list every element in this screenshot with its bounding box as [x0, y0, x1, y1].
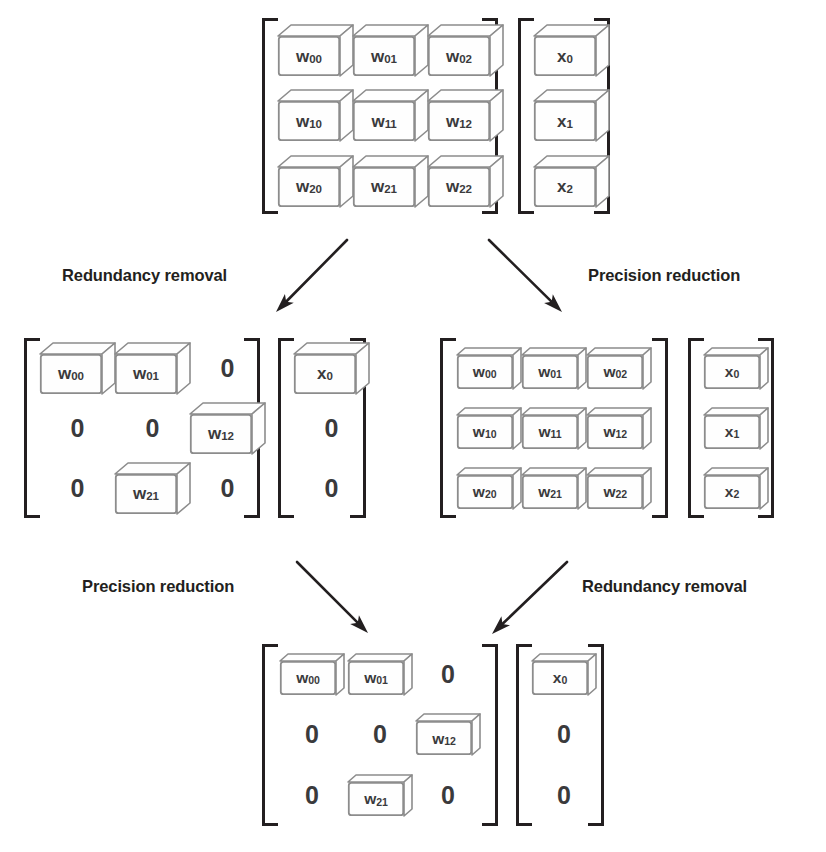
- zero-entry: 0: [373, 722, 387, 747]
- matrix-cell: w12: [414, 705, 482, 766]
- left-bracket: [688, 338, 704, 518]
- zero-entry: 0: [441, 662, 455, 687]
- vector-final-input: x000: [516, 644, 604, 826]
- zero-entry: 0: [305, 722, 319, 747]
- cube-shape-icon: [534, 156, 609, 207]
- cube-shape-icon: [280, 654, 344, 695]
- cube-shape-icon: [353, 25, 428, 76]
- zero-entry: 0: [557, 722, 571, 747]
- weight-cube: w00: [40, 343, 115, 394]
- matrix-cells: x0x1x2: [534, 18, 594, 214]
- zero-entry: 0: [557, 783, 571, 808]
- matrix-cell: w10: [456, 398, 521, 458]
- cube-shape-icon: [704, 348, 768, 389]
- cube-shape-icon: [353, 90, 428, 141]
- matrix-cell: w11: [521, 398, 586, 458]
- matrix-cell: x0: [532, 644, 596, 705]
- weight-cube: w11: [353, 90, 428, 141]
- weight-cube: w21: [115, 463, 190, 514]
- matrix-sparse-weights: w00w01000w120w210: [24, 338, 260, 518]
- cube-shape-icon: [278, 25, 353, 76]
- arrow-redundancy-removal-top: [261, 225, 362, 327]
- matrix-cell: 0: [294, 458, 369, 518]
- matrix-cell: 0: [190, 458, 265, 518]
- cube-shape-icon: [534, 25, 609, 76]
- matrix-cell: 0: [190, 338, 265, 398]
- zero-entry: 0: [325, 416, 339, 441]
- matrix-cell: w01: [521, 338, 586, 398]
- cube-shape-icon: [522, 468, 586, 509]
- matrix-cell: w00: [40, 338, 115, 398]
- weight-cube: x1: [704, 408, 768, 449]
- zero-entry: 0: [71, 416, 85, 441]
- arrow-redundancy-removal-bottom: [477, 547, 582, 649]
- matrix-cell: 0: [346, 705, 414, 766]
- weight-cube: w10: [457, 408, 521, 449]
- cube-shape-icon: [457, 408, 521, 449]
- matrix-cell: x1: [704, 398, 768, 458]
- caption-redundancy-removal-bottom: Redundancy removal: [582, 578, 747, 595]
- cube-shape-icon: [278, 90, 353, 141]
- matrix-cells: w00w01w02w10w11w12w20w21w22: [456, 338, 652, 518]
- matrix-cell: x0: [704, 338, 768, 398]
- cube-shape-icon: [532, 654, 596, 695]
- matrix-cell: w01: [353, 18, 428, 83]
- matrix-cell: w10: [278, 83, 353, 148]
- matrix-cell: w20: [456, 458, 521, 518]
- weight-cube: w10: [278, 90, 353, 141]
- matrix-final-weights: w00w01000w120w210: [262, 644, 498, 826]
- left-bracket: [278, 338, 294, 518]
- weight-cube: w01: [353, 25, 428, 76]
- cube-shape-icon: [294, 343, 369, 394]
- matrix-cell: w21: [521, 458, 586, 518]
- matrix-cell: x0: [294, 338, 369, 398]
- weight-cube: w12: [416, 714, 480, 755]
- vector-quantized-input: x0x1x2: [688, 338, 774, 518]
- matrix-cell: 0: [40, 458, 115, 518]
- weight-cube: w20: [457, 468, 521, 509]
- vector-original-input: x0x1x2: [518, 18, 610, 214]
- matrix-cell: 0: [115, 398, 190, 458]
- left-bracket: [24, 338, 40, 518]
- cube-shape-icon: [348, 775, 412, 816]
- weight-cube: x0: [294, 343, 369, 394]
- weight-cube: x1: [534, 90, 609, 141]
- caption-redundancy-removal-top: Redundancy removal: [62, 267, 227, 284]
- matrix-cells: w00w01000w120w210: [40, 338, 244, 518]
- cube-shape-icon: [353, 156, 428, 207]
- arrow-precision-reduction-top: [474, 225, 577, 327]
- matrix-cells: w00w01w02w10w11w12w20w21w22: [278, 18, 482, 214]
- matrix-original-weights: w00w01w02w10w11w12w20w21w22: [262, 18, 498, 214]
- matrix-cells: x000: [532, 644, 588, 826]
- left-bracket: [440, 338, 456, 518]
- weight-cube: w00: [280, 654, 344, 695]
- weight-cube: w12: [428, 90, 503, 141]
- pruning-quantization-diagram: w00w01w02w10w11w12w20w21w22x0x1x2w00w010…: [0, 0, 826, 852]
- matrix-cell: w12: [190, 398, 265, 458]
- matrix-cell: w22: [428, 149, 503, 214]
- matrix-cell: x2: [534, 149, 609, 214]
- matrix-cell: w21: [346, 765, 414, 826]
- matrix-cell: 0: [414, 765, 482, 826]
- weight-cube: w00: [278, 25, 353, 76]
- left-bracket: [262, 644, 278, 826]
- matrix-cell: w20: [278, 149, 353, 214]
- matrix-cell: 0: [278, 765, 346, 826]
- matrix-cell: 0: [532, 765, 596, 826]
- cube-shape-icon: [522, 348, 586, 389]
- weight-cube: w12: [190, 403, 265, 454]
- left-bracket: [518, 18, 534, 214]
- matrix-cell: 0: [294, 398, 369, 458]
- matrix-cell: x1: [534, 83, 609, 148]
- cube-shape-icon: [457, 468, 521, 509]
- cube-shape-icon: [704, 408, 768, 449]
- zero-entry: 0: [441, 783, 455, 808]
- matrix-cell: 0: [40, 398, 115, 458]
- weight-cube: w01: [348, 654, 412, 695]
- weight-cube: w02: [428, 25, 503, 76]
- matrix-cell: w00: [278, 18, 353, 83]
- matrix-cell: w01: [115, 338, 190, 398]
- matrix-cell: w21: [115, 458, 190, 518]
- cube-shape-icon: [115, 343, 190, 394]
- cube-shape-icon: [522, 408, 586, 449]
